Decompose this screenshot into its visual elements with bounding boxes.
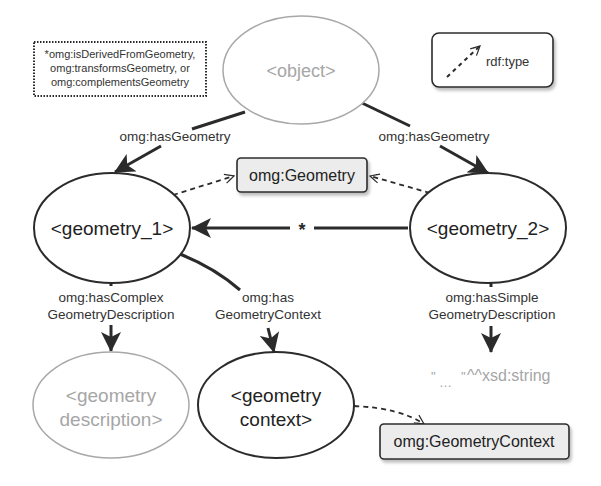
edge-object-to-geometry-1: omg:hasGeometry xyxy=(115,112,245,172)
node-geometry-context[interactable]: <geometry context> xyxy=(198,352,354,458)
literal-quote-close: " xyxy=(461,369,466,384)
node-context-line-2: context> xyxy=(240,409,312,430)
node-geometry-1-label: <geometry_1> xyxy=(51,218,174,240)
edge-geometry-1-type xyxy=(173,176,234,195)
edge-has-simple-description: omg:hasSimple GeometryDescription xyxy=(429,283,556,352)
edge-geometry-2-type xyxy=(370,176,430,193)
edge-label-simple-2: GeometryDescription xyxy=(429,307,556,322)
footnote-line-1: *omg:isDerivedFromGeometry, xyxy=(45,48,196,60)
footnote-box: *omg:isDerivedFromGeometry, omg:transfor… xyxy=(34,42,206,96)
literal-quote-open: " xyxy=(431,369,436,384)
edge-label-complex-2: GeometryDescription xyxy=(48,307,175,322)
edge-label-context-2: GeometryContext xyxy=(215,307,321,322)
literal-ellipsis: … xyxy=(439,375,452,390)
edge-label-star: * xyxy=(298,220,305,240)
footnote-line-3: omg:complementsGeometry xyxy=(51,76,190,88)
node-description-line-1: <geometry xyxy=(66,385,157,406)
edge-context-type xyxy=(354,406,424,424)
node-object-label: <object> xyxy=(266,61,335,81)
node-geometry-2[interactable]: <geometry_2> xyxy=(410,173,566,283)
node-object[interactable]: <object> xyxy=(223,16,379,124)
node-context-line-1: <geometry xyxy=(231,385,322,406)
node-geometry-description[interactable]: <geometry description> xyxy=(33,352,189,458)
node-geometry-2-label: <geometry_2> xyxy=(427,218,550,240)
class-omg-geometry-context-label: omg:GeometryContext xyxy=(394,433,556,450)
class-omg-geometry-context[interactable]: omg:GeometryContext xyxy=(380,424,569,459)
omg-geometry-diagram: *omg:isDerivedFromGeometry, omg:transfor… xyxy=(0,0,601,486)
class-omg-geometry-label: omg:Geometry xyxy=(249,167,355,184)
literal-datatype: ^^xsd:string xyxy=(467,367,550,384)
edge-has-complex-description: omg:hasComplex GeometryDescription xyxy=(48,283,175,351)
edge-label-complex-1: omg:hasComplex xyxy=(58,290,163,305)
edge-geometry-2-to-geometry-1: * xyxy=(192,220,408,240)
edge-label-simple-1: omg:hasSimple xyxy=(445,290,538,305)
edge-label-has-geometry-right: omg:hasGeometry xyxy=(378,129,489,144)
class-omg-geometry[interactable]: omg:Geometry xyxy=(237,158,367,192)
node-literal-string[interactable]: " … " ^^xsd:string xyxy=(431,367,550,390)
node-geometry-1[interactable]: <geometry_1> xyxy=(34,173,190,283)
footnote-line-2: omg:transformsGeometry, or xyxy=(50,62,190,74)
node-description-line-2: description> xyxy=(60,409,163,430)
edge-label-context-1: omg:has xyxy=(242,290,294,305)
edge-object-to-geometry-2: omg:hasGeometry xyxy=(362,103,490,173)
legend-box: rdf:type xyxy=(432,33,553,87)
edge-label-has-geometry-left: omg:hasGeometry xyxy=(119,129,230,144)
edge-has-geometry-context: omg:has GeometryContext xyxy=(180,254,321,352)
legend-label: rdf:type xyxy=(486,54,529,69)
